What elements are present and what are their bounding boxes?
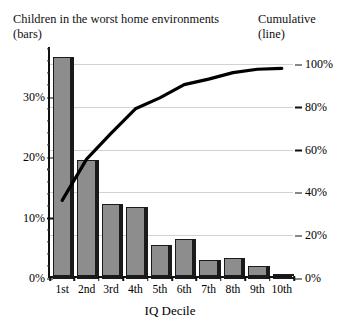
- gridline: [50, 107, 293, 108]
- x-axis-tick: [98, 276, 100, 281]
- y-axis-left-minor-tick: [47, 72, 51, 73]
- y-axis-right-tick: 80%: [305, 99, 327, 114]
- y-axis-left-tick: 30%: [23, 90, 45, 105]
- plot-inner: 0%10%20%30% 0%20%40%60%80%100% 1st2nd3rd…: [50, 47, 292, 276]
- y-axis-left-tick: 10%: [23, 210, 45, 225]
- x-axis-label: 5th: [152, 283, 167, 296]
- bar: [53, 57, 72, 276]
- x-axis-tick: [122, 276, 124, 281]
- x-axis-tick: [293, 276, 295, 281]
- y-axis-left-minor-tick: [47, 60, 51, 61]
- y-axis-left-minor-tick: [47, 193, 51, 194]
- x-axis-tick: [244, 276, 246, 281]
- x-axis-label: 8th: [226, 283, 241, 296]
- bar: [102, 204, 121, 276]
- x-axis-tick: [196, 276, 198, 281]
- y-axis-right-tick: 0%: [305, 271, 321, 286]
- chart-right-caption: Cumulative (line): [258, 12, 341, 42]
- bar: [175, 239, 194, 276]
- y-axis-left-minor-tick: [47, 241, 51, 242]
- bar: [273, 274, 292, 277]
- y-axis-left-minor-tick: [47, 253, 51, 254]
- x-axis-label: 3rd: [103, 283, 118, 296]
- bar: [248, 266, 267, 276]
- gridline: [50, 64, 293, 65]
- x-axis-tick: [49, 276, 51, 281]
- x-axis-label: 1st: [55, 283, 69, 296]
- bar: [224, 258, 243, 276]
- y-axis-left-tick: 0%: [29, 271, 45, 286]
- y-axis-left-minor-tick: [47, 229, 51, 230]
- x-axis-label: 2nd: [78, 283, 95, 296]
- bar: [199, 260, 218, 276]
- x-axis-label: 4th: [128, 283, 143, 296]
- y-axis-right-tick: 60%: [305, 142, 327, 157]
- x-axis-tick: [147, 276, 149, 281]
- plot-area: 0%10%20%30% 0%20%40%60%80%100% 1st2nd3rd…: [48, 47, 292, 278]
- x-axis-label: 9th: [250, 283, 265, 296]
- y-axis-left-minor-tick: [47, 109, 51, 110]
- y-axis-left-minor-tick: [47, 265, 51, 266]
- gridline: [50, 150, 293, 151]
- x-axis-tick: [171, 276, 173, 281]
- y-axis-left-minor-tick: [47, 121, 51, 122]
- x-axis-label: 10th: [271, 283, 292, 296]
- x-axis-title: IQ Decile: [48, 303, 292, 319]
- bar: [151, 245, 170, 276]
- y-axis-left-minor-tick: [47, 205, 51, 206]
- y-axis-left-minor-tick: [47, 84, 51, 85]
- y-axis-left-minor-tick: [47, 145, 51, 146]
- y-axis-left-tick: 20%: [23, 150, 45, 165]
- chart-left-caption: Children in the worst home environments …: [13, 12, 263, 42]
- y-axis-left-minor-tick: [47, 169, 51, 170]
- bar: [77, 160, 96, 276]
- y-axis-right-tick: 20%: [305, 228, 327, 243]
- x-axis-tick: [74, 276, 76, 281]
- x-axis-label: 6th: [177, 283, 192, 296]
- bar: [126, 207, 145, 276]
- y-axis-left-minor-tick: [47, 133, 51, 134]
- y-axis-right-tick: 40%: [305, 185, 327, 200]
- x-axis-label: 7th: [201, 283, 216, 296]
- x-axis-tick: [269, 276, 271, 281]
- chart-figure: Children in the worst home environments …: [0, 0, 341, 335]
- y-axis-left-minor-tick: [47, 48, 51, 49]
- x-axis-tick: [220, 276, 222, 281]
- y-axis-left-minor-tick: [47, 181, 51, 182]
- y-axis-right-tick: 100%: [305, 57, 333, 72]
